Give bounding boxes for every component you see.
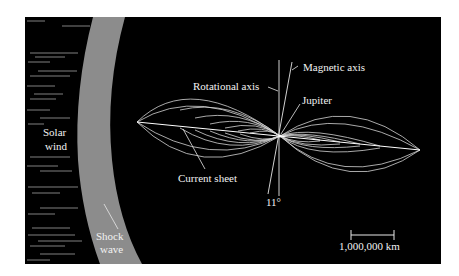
- scale-bar-label: 1,000,000 km: [339, 240, 400, 252]
- rotational-axis-label: Rotational axis: [193, 80, 259, 92]
- jupiter-label: Jupiter: [302, 94, 332, 106]
- magnetic-axis-label: Magnetic axis: [303, 61, 365, 73]
- current-sheet-label: Current sheet: [178, 172, 237, 184]
- tilt-angle-label: 11°: [266, 196, 281, 208]
- jupiter-planet: [278, 134, 281, 137]
- jupiter-magnetosphere-diagram: Solar wind Shock wave Rotational axis Ma…: [0, 0, 459, 276]
- shock-wave-label: Shock wave: [96, 230, 126, 255]
